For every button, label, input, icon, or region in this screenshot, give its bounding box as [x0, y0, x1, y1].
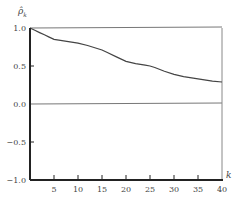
y-axis-label: ρ̂k [17, 6, 27, 18]
x-tick-label: 35 [193, 185, 203, 194]
autocorrelation-chart: 1.00.50.0−0.5−1.0 510152025303540 ρ̂k k [0, 0, 238, 203]
x-tick-label: 40 [217, 185, 227, 194]
y-tick-label: −0.5 [7, 138, 26, 147]
y-tick-label: 0.5 [13, 62, 26, 71]
autocorrelation-line [30, 28, 222, 82]
y-tick-label: −1.0 [7, 176, 26, 185]
x-tick-label: 30 [169, 185, 179, 194]
y-tick-label: 0.0 [13, 100, 26, 109]
x-axis-label: k [226, 170, 231, 180]
x-tick-label: 5 [51, 185, 56, 194]
reference-line-one [30, 27, 222, 28]
x-tick-label: 20 [121, 185, 131, 194]
y-tick-label: 1.0 [13, 24, 26, 33]
x-tick-label: 25 [145, 185, 155, 194]
x-tick-label: 15 [97, 185, 107, 194]
x-tick-label: 10 [73, 185, 83, 194]
x-axis-ticks: 510152025303540 [51, 175, 227, 194]
reference-line-zero [30, 103, 222, 104]
